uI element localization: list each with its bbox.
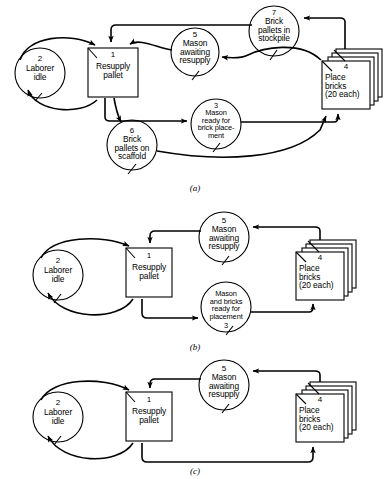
node-1-number-b: 1 <box>134 251 164 260</box>
node-1-number-c: 1 <box>134 395 164 404</box>
node-4-number-a: 4 <box>331 62 361 71</box>
arrow-c-1-to-4 <box>142 443 313 462</box>
node-5-number-c: 5 <box>209 364 239 373</box>
arrow-c-5-to-1 <box>150 379 201 388</box>
node-4-number-c: 4 <box>305 395 335 404</box>
panel-c-caption: (c) <box>175 466 215 476</box>
node-2-number-b: 2 <box>43 256 73 265</box>
activity-cycle-figure: 2 Laboreridle 1 Resupplypallet 5 Masonaw… <box>0 0 390 479</box>
node-3-number-b: 3 <box>211 321 241 330</box>
arrow-a-1-to-6 <box>114 98 121 122</box>
arrow-b-4-to-5 <box>253 227 320 240</box>
panel-b-caption: (b) <box>175 342 215 352</box>
panel-a-caption: (a) <box>175 183 215 193</box>
node-1-number-a: 1 <box>98 50 128 59</box>
arrow-a-1-to-3 <box>105 98 187 121</box>
arrow-b-3-to-4 <box>251 304 313 312</box>
panel-c-shapes <box>33 360 356 462</box>
panel-b-shapes <box>33 212 356 335</box>
node-5-number-b: 5 <box>209 216 239 225</box>
node-6-number-a: 6 <box>117 126 147 135</box>
arrow-a-4-to-7 <box>304 18 345 49</box>
arrow-c-4-to-5 <box>253 371 320 382</box>
node-2-number-c: 2 <box>43 398 73 407</box>
node-3-number-a: 3 <box>201 101 231 110</box>
arrow-b-5-to-1 <box>150 231 201 243</box>
arrow-b-1-to-3 <box>142 299 198 318</box>
diagram-canvas <box>0 0 390 479</box>
node-2-number-a: 2 <box>25 54 55 63</box>
node-7-number-a: 7 <box>259 8 289 17</box>
node-5-number-a: 5 <box>180 30 210 39</box>
node-4-number-b: 4 <box>305 253 335 262</box>
